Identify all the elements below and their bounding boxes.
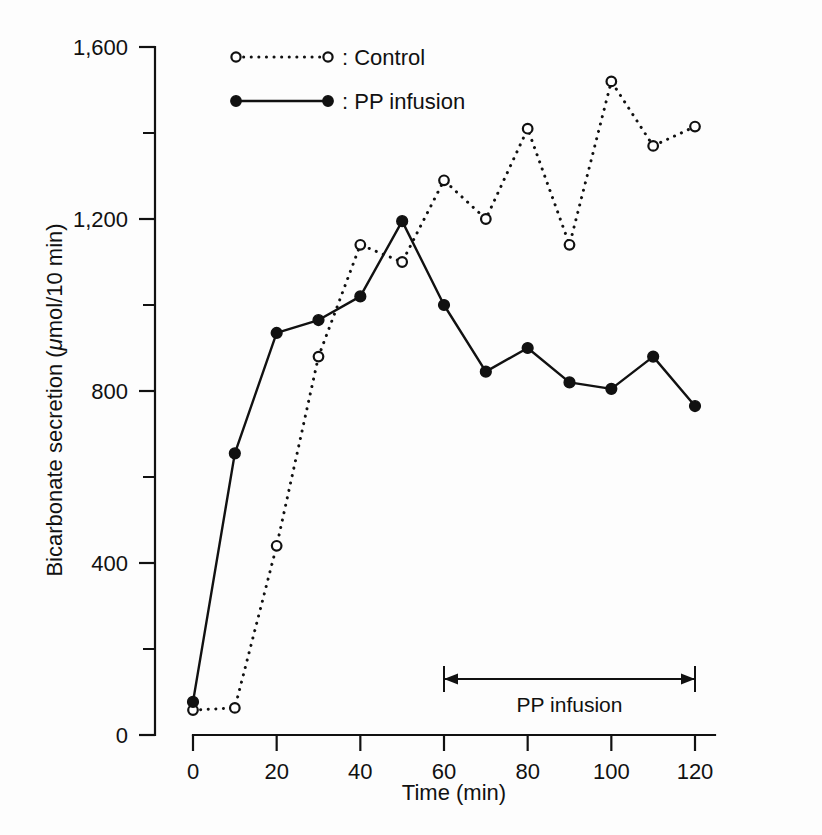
x-tick-label: 0 [187, 759, 199, 784]
y-tick-label-group: 04008001,2001,600 [73, 35, 128, 748]
pp-infusion-data-point [439, 300, 450, 311]
pp-infusion-data-point [188, 696, 199, 707]
series-pp-infusion [188, 216, 701, 708]
bicarbonate-secretion-line-chart: 04008001,2001,600 020406080100120 : Cont… [0, 0, 822, 835]
y-tick-label: 1,600 [73, 35, 128, 60]
control-data-point [481, 214, 491, 224]
pp-infusion-data-point [355, 291, 366, 302]
figure-container: 04008001,2001,600 020406080100120 : Cont… [0, 0, 822, 835]
pp-infusion-line [193, 221, 695, 702]
legend-entry-control: : Control [231, 45, 425, 70]
pp-infusion-data-point [564, 377, 575, 388]
y-axis-title: Bicarbonate secretion (μmol/10 min) [42, 223, 67, 576]
pp-infusion-data-point [480, 366, 491, 377]
control-data-point [565, 240, 575, 250]
annotation-arrowhead-left-icon [444, 674, 458, 685]
pp-infusion-data-point [397, 216, 408, 227]
control-data-point [607, 77, 617, 87]
y-tick-label: 800 [91, 379, 128, 404]
pp-infusion-data-point [606, 383, 617, 394]
control-data-point [523, 124, 533, 134]
pp-infusion-data-point [313, 315, 324, 326]
series-control [188, 77, 700, 715]
y-tick-label: 400 [91, 551, 128, 576]
x-tick-label: 120 [677, 759, 714, 784]
annotation-label: PP infusion [517, 693, 623, 716]
control-data-point [272, 541, 282, 551]
legend-pp-label: : PP infusion [342, 89, 465, 114]
legend-pp-filled-circle-icon-end [323, 96, 333, 106]
pp-infusion-period-annotation: PP infusion [444, 666, 695, 716]
pp-infusion-markers [188, 216, 701, 708]
x-tick-label: 100 [593, 759, 630, 784]
x-tick-label: 40 [348, 759, 372, 784]
y-axis-title-mu: μ [42, 338, 67, 351]
control-data-point [314, 352, 324, 362]
x-axis-title: Time (min) [402, 780, 506, 805]
control-markers [188, 77, 700, 715]
y-tick-label: 0 [116, 723, 128, 748]
legend-control-open-circle-icon [231, 52, 240, 61]
control-data-point [356, 240, 366, 250]
legend-control-open-circle-icon-end [323, 52, 332, 61]
control-data-point [397, 257, 407, 267]
control-data-point [439, 176, 449, 186]
control-data-point [690, 122, 700, 132]
control-data-point [230, 703, 240, 713]
legend: : Control : PP infusion [231, 45, 465, 114]
pp-infusion-data-point [229, 448, 240, 459]
y-tick-group [139, 47, 155, 735]
pp-infusion-data-point [648, 351, 659, 362]
x-tick-label: 80 [515, 759, 539, 784]
control-data-point [648, 141, 658, 151]
pp-infusion-data-point [522, 343, 533, 354]
pp-infusion-data-point [271, 328, 282, 339]
y-axis-title-prefix: Bicarbonate secretion ( [42, 350, 67, 577]
y-tick-label: 1,200 [73, 207, 128, 232]
legend-entry-pp-infusion: : PP infusion [231, 89, 465, 114]
x-axis: 020406080100120 [187, 735, 715, 784]
y-axis: 04008001,2001,600 [73, 35, 155, 748]
pp-infusion-data-point [690, 401, 701, 412]
legend-pp-filled-circle-icon [231, 96, 241, 106]
x-tick-group [193, 735, 695, 751]
legend-control-label: : Control [342, 45, 425, 70]
x-tick-label: 20 [264, 759, 288, 784]
y-axis-title-suffix: mol/10 min) [42, 223, 67, 338]
svg-text:Bicarbonate secretion (μmol/10: Bicarbonate secretion (μmol/10 min) [42, 223, 67, 576]
annotation-arrowhead-right-icon [681, 674, 695, 685]
